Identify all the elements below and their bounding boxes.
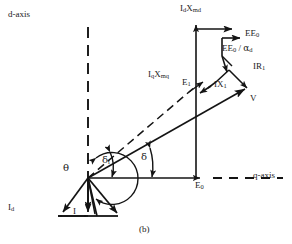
theta-label: θ xyxy=(63,163,69,173)
id-xmd-label: IdXmd xyxy=(180,4,201,14)
q-axis-label: q-axis xyxy=(253,171,275,180)
ee0-alpha-d-label: EE0 / αd xyxy=(222,44,253,54)
v-label: V xyxy=(250,94,257,103)
ir1-label: IR1 xyxy=(253,62,265,72)
ee0-label: EE0 xyxy=(245,29,259,39)
delta-label: δ xyxy=(141,152,147,162)
i-label: I xyxy=(73,207,76,216)
e1-label: E1 xyxy=(182,78,191,88)
phasor-diagram-figure: d-axis q-axis IdXmd IqXmq EE0 EE0 / αd I… xyxy=(0,0,292,244)
figure-caption: (b) xyxy=(139,224,150,234)
iq-xmq-label: IqXmq xyxy=(148,70,169,80)
delta-i-label: δi xyxy=(102,155,110,166)
ix1-label: IX1 xyxy=(214,80,227,90)
d-axis-label: d-axis xyxy=(8,10,30,19)
id-label: Id xyxy=(8,203,14,213)
e0-label: E0 xyxy=(195,181,204,191)
